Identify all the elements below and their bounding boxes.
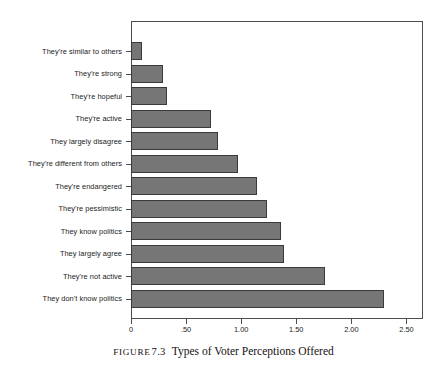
- bar-row: [131, 265, 423, 288]
- x-axis-tick-label: .50: [181, 325, 191, 334]
- y-axis-tick-label: They're endangered: [55, 175, 122, 198]
- y-axis-tick-label: They're different from others: [28, 153, 122, 176]
- x-axis-tick-mark: [131, 319, 132, 324]
- bar: [131, 290, 384, 308]
- figure-number: 7.3: [152, 346, 166, 357]
- y-axis-tick-label: They're similar to others: [42, 40, 122, 63]
- y-axis-tick-label: They know politics: [61, 220, 122, 243]
- bar: [131, 110, 211, 128]
- figure-title: Types of Voter Perceptions Offered: [172, 345, 334, 357]
- y-axis-tick-label: They're not active: [63, 265, 122, 288]
- bar-row: [131, 243, 423, 266]
- y-axis-tick-label: They're hopeful: [71, 85, 122, 108]
- bar: [131, 177, 257, 195]
- x-axis-tick-label: 0: [129, 325, 133, 334]
- y-axis-tick-label: They largely agree: [60, 243, 122, 266]
- bar: [131, 132, 218, 150]
- bar-row: [131, 153, 423, 176]
- y-axis-tick-label: They're strong: [74, 63, 122, 86]
- x-axis-tick-mark: [241, 319, 242, 324]
- bar-row: [131, 130, 423, 153]
- bars-layer: [131, 21, 423, 319]
- x-axis-tick-mark: [186, 319, 187, 324]
- bar-row: [131, 220, 423, 243]
- bar-row: [131, 40, 423, 63]
- bar: [131, 155, 238, 173]
- y-axis-tick-label: They don't know politics: [43, 288, 122, 311]
- x-axis-tick-mark: [406, 319, 407, 324]
- bar-row: [131, 108, 423, 131]
- x-axis-tick-label: 1.00: [234, 325, 248, 334]
- bar: [131, 42, 142, 60]
- x-axis-tick-label: 1.50: [289, 325, 303, 334]
- x-axis: 0.501.001.502.002.50: [131, 319, 423, 341]
- bar-row: [131, 85, 423, 108]
- y-axis-tick-label: They largely disagree: [50, 130, 122, 153]
- bar: [131, 200, 267, 218]
- bar-row: [131, 198, 423, 221]
- figure-caption: FIGURE7.3Types of Voter Perceptions Offe…: [0, 345, 447, 357]
- bar-row: [131, 175, 423, 198]
- x-axis-tick-label: 2.00: [344, 325, 358, 334]
- figure-label: FIGURE: [113, 347, 150, 357]
- x-axis-tick-label: 2.50: [399, 325, 413, 334]
- bar: [131, 267, 325, 285]
- bar: [131, 222, 281, 240]
- x-axis-tick-mark: [351, 319, 352, 324]
- bar-row: [131, 288, 423, 311]
- y-axis-tick-label: They're active: [76, 108, 122, 131]
- y-axis-labels: They're similar to othersThey're strongT…: [0, 21, 131, 319]
- bar-row: [131, 63, 423, 86]
- figure-container: They're similar to othersThey're strongT…: [0, 0, 447, 373]
- x-axis-tick-mark: [296, 319, 297, 324]
- y-axis-tick-label: They're pessimistic: [58, 198, 122, 221]
- bar: [131, 65, 163, 83]
- bar: [131, 87, 167, 105]
- bar: [131, 245, 284, 263]
